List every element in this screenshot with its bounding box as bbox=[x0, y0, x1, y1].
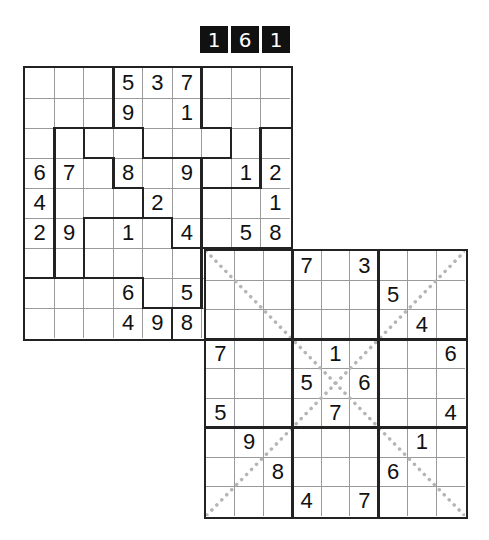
sudoku-cell[interactable]: 6 bbox=[436, 339, 465, 368]
sudoku-cell[interactable] bbox=[143, 98, 172, 128]
sudoku-cell[interactable] bbox=[54, 188, 83, 218]
sudoku-cell[interactable]: 3 bbox=[143, 68, 172, 98]
sudoku-cell[interactable]: 2 bbox=[143, 188, 172, 218]
sudoku-cell[interactable] bbox=[379, 428, 408, 457]
sudoku-cell[interactable] bbox=[25, 248, 54, 278]
sudoku-cell[interactable]: 6 bbox=[350, 369, 379, 398]
sudoku-cell[interactable]: 3 bbox=[350, 251, 379, 280]
sudoku-cell[interactable] bbox=[84, 308, 113, 338]
sudoku-cell[interactable]: 5 bbox=[113, 68, 142, 98]
sudoku-cell[interactable]: 9 bbox=[143, 308, 172, 338]
sudoku-cell[interactable] bbox=[25, 68, 54, 98]
sudoku-cell[interactable]: 4 bbox=[292, 487, 321, 516]
sudoku-cell[interactable]: 1 bbox=[113, 218, 142, 248]
sudoku-cell[interactable] bbox=[292, 280, 321, 309]
sudoku-cell[interactable] bbox=[292, 428, 321, 457]
sudoku-cell[interactable] bbox=[202, 158, 231, 188]
sudoku-cell[interactable] bbox=[321, 428, 350, 457]
sudoku-cell[interactable] bbox=[407, 369, 436, 398]
sudoku-cell[interactable] bbox=[54, 248, 83, 278]
sudoku-cell[interactable] bbox=[143, 248, 172, 278]
sudoku-cell[interactable] bbox=[292, 398, 321, 427]
sudoku-cell[interactable] bbox=[235, 398, 264, 427]
sudoku-cell[interactable]: 1 bbox=[321, 339, 350, 368]
sudoku-cell[interactable] bbox=[25, 128, 54, 158]
sudoku-cell[interactable]: 2 bbox=[261, 158, 290, 188]
sudoku-cell[interactable]: 6 bbox=[25, 158, 54, 188]
sudoku-cell[interactable] bbox=[172, 188, 201, 218]
sudoku-cell[interactable] bbox=[206, 310, 235, 339]
sudoku-cell[interactable] bbox=[264, 251, 293, 280]
sudoku-cell[interactable] bbox=[321, 310, 350, 339]
sudoku-cell[interactable] bbox=[25, 98, 54, 128]
sudoku-cell[interactable]: 7 bbox=[350, 487, 379, 516]
sudoku-cell[interactable] bbox=[321, 251, 350, 280]
sudoku-cell[interactable] bbox=[436, 457, 465, 486]
sudoku-cell[interactable] bbox=[54, 68, 83, 98]
sudoku-cell[interactable] bbox=[350, 280, 379, 309]
sudoku-cell[interactable] bbox=[379, 369, 408, 398]
sudoku-cell[interactable] bbox=[54, 128, 83, 158]
sudoku-cell[interactable] bbox=[143, 128, 172, 158]
sudoku-cell[interactable] bbox=[350, 398, 379, 427]
sudoku-cell[interactable]: 6 bbox=[379, 457, 408, 486]
sudoku-cell[interactable]: 8 bbox=[264, 457, 293, 486]
sudoku-cell[interactable] bbox=[379, 487, 408, 516]
sudoku-cell[interactable]: 7 bbox=[54, 158, 83, 188]
sudoku-cell[interactable] bbox=[407, 280, 436, 309]
sudoku-cell[interactable]: 7 bbox=[321, 398, 350, 427]
sudoku-cell[interactable] bbox=[25, 308, 54, 338]
sudoku-cell[interactable] bbox=[84, 128, 113, 158]
sudoku-cell[interactable]: 4 bbox=[25, 188, 54, 218]
sudoku-cell[interactable] bbox=[350, 310, 379, 339]
sudoku-cell[interactable] bbox=[231, 188, 260, 218]
sudoku-cell[interactable] bbox=[206, 457, 235, 486]
sudoku-cell[interactable]: 4 bbox=[172, 218, 201, 248]
sudoku-cell[interactable] bbox=[235, 487, 264, 516]
sudoku-cell[interactable]: 1 bbox=[407, 428, 436, 457]
sudoku-cell[interactable] bbox=[436, 251, 465, 280]
sudoku-cell[interactable] bbox=[206, 428, 235, 457]
sudoku-cell[interactable] bbox=[436, 310, 465, 339]
sudoku-cell[interactable] bbox=[206, 280, 235, 309]
sudoku-cell[interactable] bbox=[264, 369, 293, 398]
sudoku-cell[interactable] bbox=[231, 98, 260, 128]
sudoku-cell[interactable] bbox=[54, 278, 83, 308]
sudoku-cell[interactable] bbox=[84, 68, 113, 98]
sudoku-cell[interactable] bbox=[264, 428, 293, 457]
sudoku-cell[interactable] bbox=[113, 188, 142, 218]
sudoku-cell[interactable]: 4 bbox=[407, 310, 436, 339]
sudoku-cell[interactable] bbox=[321, 369, 350, 398]
sudoku-cell[interactable] bbox=[321, 457, 350, 486]
sudoku-cell[interactable] bbox=[292, 457, 321, 486]
sudoku-cell[interactable] bbox=[407, 457, 436, 486]
sudoku-cell[interactable] bbox=[379, 251, 408, 280]
sudoku-cell[interactable] bbox=[436, 280, 465, 309]
sudoku-cell[interactable] bbox=[84, 158, 113, 188]
sudoku-cell[interactable]: 9 bbox=[113, 98, 142, 128]
sudoku-cell[interactable] bbox=[54, 308, 83, 338]
sudoku-cell[interactable]: 4 bbox=[436, 398, 465, 427]
sudoku-cell[interactable] bbox=[113, 128, 142, 158]
sudoku-cell[interactable] bbox=[407, 398, 436, 427]
sudoku-cell[interactable] bbox=[202, 98, 231, 128]
sudoku-cell[interactable] bbox=[202, 218, 231, 248]
sudoku-cell[interactable]: 1 bbox=[231, 158, 260, 188]
sudoku-cell[interactable]: 9 bbox=[54, 218, 83, 248]
sudoku-cell[interactable] bbox=[379, 339, 408, 368]
sudoku-cell[interactable] bbox=[206, 487, 235, 516]
sudoku-cell[interactable] bbox=[379, 398, 408, 427]
sudoku-cell[interactable] bbox=[264, 487, 293, 516]
sudoku-cell[interactable]: 5 bbox=[231, 218, 260, 248]
sudoku-cell[interactable] bbox=[436, 369, 465, 398]
sudoku-cell[interactable] bbox=[84, 218, 113, 248]
sudoku-cell[interactable] bbox=[350, 339, 379, 368]
sudoku-cell[interactable]: 7 bbox=[172, 68, 201, 98]
sudoku-cell[interactable] bbox=[231, 128, 260, 158]
sudoku-cell[interactable] bbox=[261, 68, 290, 98]
sudoku-cell[interactable]: 9 bbox=[172, 158, 201, 188]
sudoku-cell[interactable] bbox=[143, 218, 172, 248]
sudoku-cell[interactable] bbox=[143, 278, 172, 308]
sudoku-cell[interactable] bbox=[264, 339, 293, 368]
sudoku-cell[interactable] bbox=[407, 251, 436, 280]
